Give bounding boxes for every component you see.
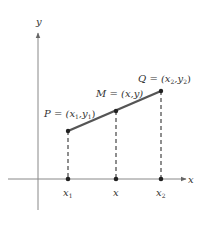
tick-point-x1 — [66, 177, 71, 182]
tick-label-x: x — [113, 187, 119, 198]
midpoint-diagram: x y P = (x1,y1) M = (x,y) Q = (x2,y2) x1… — [0, 0, 203, 225]
point-p — [66, 129, 70, 133]
label-q: Q = (x2,y2) — [138, 73, 191, 85]
y-axis-label: y — [35, 16, 42, 27]
point-m — [114, 109, 118, 113]
label-m: M = (x,y) — [95, 88, 143, 99]
tick-label-x1: x1 — [63, 187, 72, 199]
tick-point-x — [114, 177, 119, 182]
tick-point-x2 — [159, 177, 164, 182]
tick-label-x2: x2 — [156, 187, 166, 199]
x-axis-label: x — [188, 174, 194, 185]
point-q — [159, 89, 163, 93]
label-p: P = (x1,y1) — [43, 108, 96, 120]
